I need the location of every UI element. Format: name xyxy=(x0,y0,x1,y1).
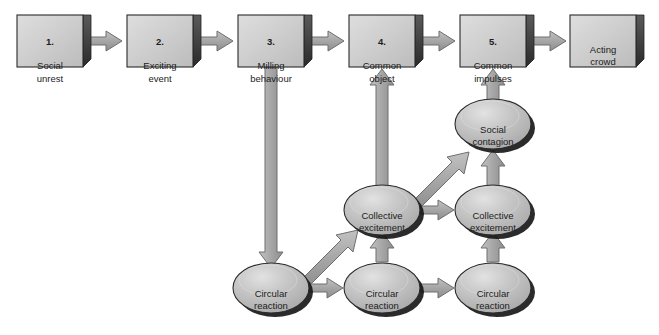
diagram-canvas: 1. Social unrest 2. Exciting event 3. Mi… xyxy=(0,0,659,335)
circular-reaction-1[interactable] xyxy=(233,263,313,317)
connector-ce1-to-stage4 xyxy=(370,69,394,186)
connector-stage2-to-stage3 xyxy=(196,31,233,51)
outcome-box[interactable] xyxy=(570,15,644,67)
collective-excitement-2[interactable] xyxy=(455,185,535,239)
stage-1[interactable] xyxy=(17,15,91,67)
circular-reaction-3[interactable] xyxy=(455,263,535,317)
circular-reaction-2[interactable] xyxy=(344,263,424,317)
connector-social-contagion-to-stage5 xyxy=(481,69,505,100)
diagram-svg xyxy=(0,0,659,335)
social-contagion-1[interactable] xyxy=(455,99,535,153)
connector-stage3-to-stage4 xyxy=(307,31,344,51)
stage-4[interactable] xyxy=(349,15,423,67)
connector-layer xyxy=(85,31,566,298)
connector-stage5-to-outcome xyxy=(529,31,566,51)
connector-stage3-to-circular-reaction-1 xyxy=(259,67,283,268)
connector-ce2-to-social-contagion xyxy=(481,150,505,186)
stage-5[interactable] xyxy=(460,15,534,67)
stage-3[interactable] xyxy=(238,15,312,67)
connector-stage4-to-stage5 xyxy=(418,31,455,51)
stage-2[interactable] xyxy=(127,15,201,67)
